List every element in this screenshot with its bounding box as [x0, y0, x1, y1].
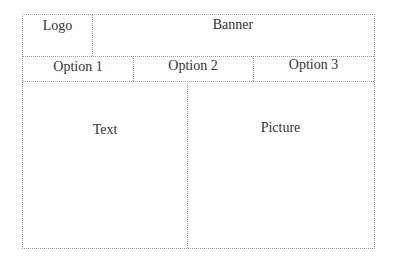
- nav-content-divider: [23, 81, 374, 82]
- picture-placeholder: Picture: [187, 120, 374, 136]
- text-placeholder: Text: [23, 122, 187, 138]
- nav-option-3[interactable]: Option 3: [253, 57, 374, 73]
- nav-option-2[interactable]: Option 2: [133, 58, 253, 74]
- nav-option-1[interactable]: Option 1: [23, 59, 133, 75]
- logo-placeholder: Logo: [23, 18, 92, 34]
- wireframe-frame: Logo Banner Option 1 Option 2 Option 3 T…: [22, 14, 375, 249]
- content-divider: [187, 81, 188, 248]
- banner-placeholder: Banner: [92, 17, 374, 33]
